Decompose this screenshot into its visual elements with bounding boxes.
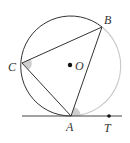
label-o: O: [75, 59, 84, 73]
label-t: T: [104, 121, 112, 135]
label-b: B: [104, 13, 112, 27]
label-a: A: [65, 120, 74, 134]
center-point-o: [68, 63, 72, 67]
label-c: C: [8, 60, 17, 74]
circle-major-arc: [21, 16, 102, 116]
segment-ca: [22, 63, 71, 116]
point-t: [107, 114, 111, 118]
geometry-figure: B C O A T: [0, 0, 130, 143]
